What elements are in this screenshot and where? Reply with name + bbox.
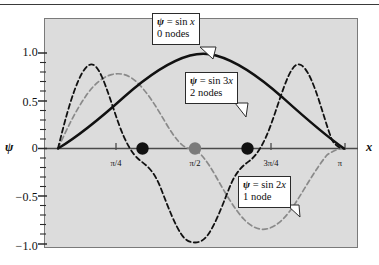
callout-sin-3x-nodes: 2 nodes <box>190 87 233 99</box>
psi-symbol-2: ψ <box>190 75 197 86</box>
y-tick-label-neg1: −1.0 <box>1 239 38 254</box>
callout-sin-3x[interactable]: ψ = sin 3x 2 nodes <box>185 72 238 104</box>
callout-sin-3x-expression: ψ = sin 3x <box>190 75 233 87</box>
y-tick-label-neg0p5: −0.5 <box>1 190 38 205</box>
plot-area-frame <box>44 18 358 248</box>
page-rule-divider <box>0 4 379 5</box>
callout-sin-2x-var: x <box>281 179 286 190</box>
callout-sin-2x[interactable]: ψ = sin 2x 1 node <box>238 176 291 208</box>
callout-sin-x-eq: = sin <box>164 16 190 27</box>
x-tick-label-3pi-over-4: 3π/4 <box>254 158 288 168</box>
y-tick-label-0p5: 0.5 <box>4 95 38 110</box>
callout-sin-x[interactable]: ψ = sin x 0 nodes <box>152 13 200 45</box>
x-tick-label-pi-over-2: π/2 <box>180 158 210 168</box>
callout-sin-3x-var: x <box>228 75 233 86</box>
callout-sin-2x-eq: = sin 2 <box>250 179 281 190</box>
figure-wavefunction-plot: 1.0 0.5 0 −0.5 −1.0 ψ x π/4 π/2 3π/4 π <box>0 0 379 265</box>
callout-sin-x-expression: ψ = sin x <box>157 16 195 28</box>
callout-sin-3x-eq: = sin 3 <box>197 75 228 86</box>
callout-sin-x-var: x <box>190 16 195 27</box>
callout-sin-2x-nodes: 1 node <box>243 191 286 203</box>
y-axis-label: ψ <box>5 140 13 155</box>
x-tick-label-pi-over-4: π/4 <box>101 158 131 168</box>
x-tick-label-pi: π <box>329 158 351 168</box>
callout-sin-x-nodes: 0 nodes <box>157 28 195 40</box>
x-axis-label: x <box>366 140 372 155</box>
callout-sin-2x-expression: ψ = sin 2x <box>243 179 286 191</box>
psi-symbol-1: ψ <box>157 16 164 27</box>
y-tick-label-1: 1.0 <box>4 45 38 60</box>
psi-symbol-3: ψ <box>243 179 250 190</box>
